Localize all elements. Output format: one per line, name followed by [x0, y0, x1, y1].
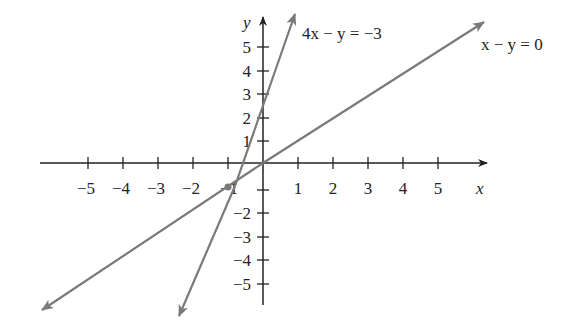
- svg-text:−5: −5: [233, 275, 251, 294]
- line1-label: 4x − y = −3: [302, 24, 382, 43]
- svg-text:−2: −2: [182, 179, 200, 198]
- svg-text:2: 2: [329, 179, 338, 198]
- svg-text:5: 5: [243, 38, 252, 57]
- svg-text:3: 3: [243, 85, 252, 104]
- svg-text:−2: −2: [233, 204, 251, 223]
- svg-text:−5: −5: [77, 179, 95, 198]
- svg-text:4: 4: [243, 62, 252, 81]
- svg-text:5: 5: [434, 179, 443, 198]
- line2-label: x − y = 0: [481, 35, 543, 54]
- svg-text:−3: −3: [147, 179, 165, 198]
- svg-text:3: 3: [364, 179, 373, 198]
- y-axis-label: y: [241, 13, 251, 32]
- svg-text:−4: −4: [233, 251, 252, 270]
- chart-canvas: −5 −4 −3 −2 −1 1 2 3 4 5 5 4 3 2 1 −2 −3…: [0, 0, 567, 336]
- x-tick-labels: −5 −4 −3 −2 −1 1 2 3 4 5: [77, 179, 442, 198]
- line-4x-minus-y-eq-neg3-lower: [179, 186, 235, 316]
- svg-text:−3: −3: [233, 228, 251, 247]
- svg-text:4: 4: [399, 179, 408, 198]
- intersection-point: [225, 184, 232, 191]
- line-x-minus-y-eq-0: [263, 22, 484, 163]
- svg-text:−4: −4: [112, 179, 131, 198]
- svg-text:2: 2: [243, 109, 252, 128]
- x-axis-label: x: [475, 179, 484, 198]
- svg-text:1: 1: [294, 179, 303, 198]
